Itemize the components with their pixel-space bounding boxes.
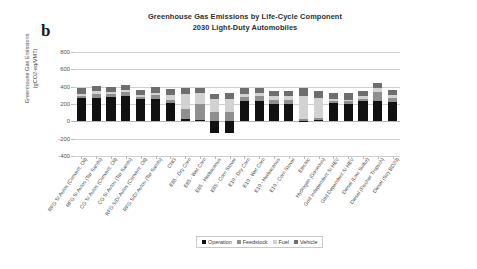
y-axis-title-line-2: (gCO2-eq/VMT): [31, 13, 39, 123]
bar-segment-feedstock: [255, 96, 264, 101]
bar-segment-vehicle: [92, 86, 101, 91]
bar-segment-vehicle: [299, 88, 308, 96]
bar-group[interactable]: [388, 52, 397, 156]
bar-segment-vehicle: [166, 89, 175, 95]
bar-segment-operation: [225, 121, 234, 133]
bar-group[interactable]: [225, 52, 234, 156]
bar-segment-feedstock: [344, 101, 353, 103]
legend-label-operation: Operation: [208, 239, 232, 245]
bar-segment-vehicle: [210, 94, 219, 99]
bar-segment-vehicle: [255, 88, 264, 93]
bar-group[interactable]: [77, 52, 86, 156]
bar-segment-operation: [358, 101, 367, 121]
bar-group[interactable]: [299, 52, 308, 156]
bar-segment-fuel: [299, 96, 308, 119]
bar-segment-fuel: [210, 99, 219, 112]
legend-label-feedstock: Feedstock: [243, 239, 268, 245]
y-tick-label-0: 0: [67, 118, 70, 124]
bar-group[interactable]: [136, 52, 145, 156]
legend-label-vehicle: Vehicle: [300, 239, 317, 245]
y-tick-label-800: 800: [60, 49, 70, 55]
bar-group[interactable]: [284, 52, 293, 156]
bar-segment-feedstock: [92, 94, 101, 98]
bar-group[interactable]: [314, 52, 323, 156]
bar-group[interactable]: [210, 52, 219, 156]
bar-segment-vehicle: [225, 93, 234, 98]
bar-segment-feedstock: [106, 94, 115, 97]
bar-segment-fuel: [269, 96, 278, 100]
bar-group[interactable]: [121, 52, 130, 156]
bar-group[interactable]: [195, 52, 204, 156]
bar-segment-fuel: [358, 96, 367, 98]
bar-segment-operation: [92, 98, 101, 122]
bar-segment-operation: [181, 119, 190, 121]
bar-segment-operation: [344, 104, 353, 122]
bar-segment-operation: [210, 121, 219, 132]
bar-segment-operation: [121, 96, 130, 121]
bar-group[interactable]: [344, 52, 353, 156]
bar-segment-feedstock: [373, 92, 382, 100]
bar-segment-feedstock: [284, 100, 293, 104]
bar-segment-operation: [269, 104, 278, 122]
bar-segment-vehicle: [195, 88, 204, 93]
bar-segment-fuel: [121, 90, 130, 93]
bar-group[interactable]: [255, 52, 264, 156]
x-axis-label: Electric: [297, 157, 311, 174]
y-tick-label--400: -400: [58, 153, 70, 159]
bar-series-container: [74, 52, 400, 156]
bar-segment-fuel: [106, 92, 115, 94]
bar-group[interactable]: [151, 52, 160, 156]
chart-title-line-1: Greenhouse Gas Emissions by Life-Cycle C…: [110, 12, 380, 23]
legend-item-vehicle[interactable]: Vehicle: [294, 239, 317, 245]
y-tick-label--200: -200: [58, 136, 70, 142]
bar-segment-vehicle: [136, 90, 145, 95]
bar-segment-feedstock: [166, 100, 175, 103]
bar-segment-vehicle: [329, 93, 338, 99]
bar-segment-feedstock: [77, 96, 86, 98]
bar-group[interactable]: [358, 52, 367, 156]
legend-item-operation[interactable]: Operation: [202, 239, 232, 245]
legend-label-fuel: Fuel: [279, 239, 290, 245]
bar-segment-fuel: [373, 88, 382, 92]
bar-segment-feedstock: [136, 97, 145, 99]
bar-segment-feedstock: [210, 112, 219, 121]
bar-segment-vehicle: [77, 88, 86, 93]
bar-group[interactable]: [240, 52, 249, 156]
bar-segment-operation: [388, 102, 397, 121]
bar-segment-vehicle: [344, 93, 353, 100]
bar-group[interactable]: [269, 52, 278, 156]
bar-segment-feedstock: [314, 118, 323, 120]
bar-group[interactable]: [329, 52, 338, 156]
bar-segment-vehicle: [358, 91, 367, 96]
bar-segment-feedstock: [151, 95, 160, 99]
y-tick-label-400: 400: [60, 84, 70, 90]
legend-item-fuel[interactable]: Fuel: [273, 239, 290, 245]
chart-legend: OperationFeedstockFuelVehicle: [196, 236, 323, 248]
bar-segment-operation: [255, 101, 264, 122]
bar-segment-vehicle: [181, 88, 190, 93]
x-axis-labels: RFG SI Autos (Convent. Oil)RFG SI Autos …: [74, 157, 400, 235]
bar-segment-fuel: [225, 99, 234, 112]
bar-segment-fuel: [314, 98, 323, 118]
bar-group[interactable]: [181, 52, 190, 156]
bar-segment-operation: [299, 121, 308, 122]
bar-segment-fuel: [240, 94, 249, 97]
legend-item-feedstock[interactable]: Feedstock: [237, 239, 268, 245]
legend-swatch-operation-icon: [202, 240, 206, 244]
bar-segment-fuel: [255, 93, 264, 96]
bar-segment-fuel: [92, 91, 101, 94]
bar-group[interactable]: [92, 52, 101, 156]
plot-area: 8006004002000-200-400: [74, 52, 400, 156]
bar-group[interactable]: [106, 52, 115, 156]
bar-group[interactable]: [166, 52, 175, 156]
x-axis-label: CNG: [167, 157, 178, 169]
bar-segment-fuel: [284, 96, 293, 100]
bar-segment-fuel: [136, 95, 145, 97]
y-axis-title: Greenhouse Gas Emissions (gCO2-eq/VMT): [23, 13, 40, 123]
bar-segment-feedstock: [358, 99, 367, 102]
bar-segment-feedstock: [195, 104, 204, 119]
bar-segment-feedstock: [181, 109, 190, 119]
bar-group[interactable]: [373, 52, 382, 156]
bar-segment-operation: [106, 97, 115, 122]
chart-title: Greenhouse Gas Emissions by Life-Cycle C…: [110, 12, 380, 33]
